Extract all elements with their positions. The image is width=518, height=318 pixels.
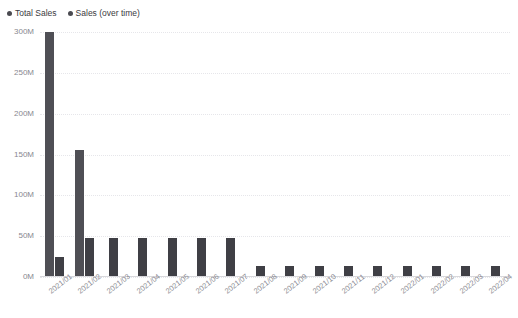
chart-legend: Total Sales Sales (over time) bbox=[7, 9, 140, 18]
legend-item-total-sales[interactable]: Total Sales bbox=[7, 9, 57, 18]
x-axis-tick: 2021/04 bbox=[128, 279, 157, 318]
bar-series-container bbox=[40, 32, 510, 277]
bar-group bbox=[363, 32, 392, 277]
bar-group bbox=[158, 32, 187, 277]
x-axis-tick: 2021/06 bbox=[187, 279, 216, 318]
x-axis-labels: 2021/012021/022021/032021/042021/052021/… bbox=[40, 279, 510, 318]
y-axis-tick-label: 100M bbox=[14, 191, 34, 199]
bar[interactable] bbox=[197, 238, 206, 277]
x-axis-tick: 2021/12 bbox=[363, 279, 392, 318]
bar-group bbox=[393, 32, 422, 277]
bar-group bbox=[275, 32, 304, 277]
legend-dot-icon bbox=[68, 11, 73, 16]
x-axis-tick: 2021/01 bbox=[40, 279, 69, 318]
bar-group bbox=[69, 32, 98, 277]
legend-item-sales-over-time[interactable]: Sales (over time) bbox=[68, 9, 140, 18]
bar[interactable] bbox=[45, 32, 54, 277]
bar-group bbox=[216, 32, 245, 277]
x-axis-tick: 2022/04 bbox=[481, 279, 510, 318]
y-axis-tick-label: 150M bbox=[14, 151, 34, 159]
x-axis-tick: 2022/02 bbox=[422, 279, 451, 318]
bar[interactable] bbox=[226, 238, 235, 277]
bar-group bbox=[334, 32, 363, 277]
bar[interactable] bbox=[55, 257, 64, 277]
bar-group bbox=[187, 32, 216, 277]
clipped-top-text bbox=[120, 0, 300, 5]
bar[interactable] bbox=[138, 238, 147, 277]
x-axis-tick: 2021/11 bbox=[334, 279, 363, 318]
x-axis-tick: 2022/03 bbox=[451, 279, 480, 318]
plot-area: 0M50M100M150M200M250M300M bbox=[40, 32, 510, 277]
x-axis-tick: 2021/08 bbox=[246, 279, 275, 318]
bar-group bbox=[99, 32, 128, 277]
y-axis-tick-label: 300M bbox=[14, 28, 34, 36]
x-axis-tick: 2021/03 bbox=[99, 279, 128, 318]
bar[interactable] bbox=[168, 238, 177, 277]
x-axis-tick: 2021/07 bbox=[216, 279, 245, 318]
x-axis-tick: 2021/02 bbox=[69, 279, 98, 318]
legend-label: Sales (over time) bbox=[76, 9, 140, 18]
y-axis-tick-label: 200M bbox=[14, 110, 34, 118]
x-axis-tick: 2021/09 bbox=[275, 279, 304, 318]
legend-label: Total Sales bbox=[15, 9, 57, 18]
bar-group bbox=[481, 32, 510, 277]
bar[interactable] bbox=[85, 238, 94, 277]
bar[interactable] bbox=[109, 238, 118, 277]
y-axis-tick-label: 250M bbox=[14, 69, 34, 77]
bar-group bbox=[451, 32, 480, 277]
y-axis-tick-label: 0M bbox=[23, 273, 34, 281]
y-axis-tick-label: 50M bbox=[18, 232, 34, 240]
legend-dot-icon bbox=[7, 11, 12, 16]
bar-group bbox=[304, 32, 333, 277]
x-axis-tick: 2021/10 bbox=[304, 279, 333, 318]
bar[interactable] bbox=[75, 150, 84, 277]
x-axis-tick: 2022/01 bbox=[393, 279, 422, 318]
bar-group bbox=[40, 32, 69, 277]
bar-group bbox=[128, 32, 157, 277]
bar-group bbox=[422, 32, 451, 277]
bar-chart: Total Sales Sales (over time) 0M50M100M1… bbox=[0, 0, 518, 318]
bar-group bbox=[246, 32, 275, 277]
x-axis-tick: 2021/05 bbox=[158, 279, 187, 318]
